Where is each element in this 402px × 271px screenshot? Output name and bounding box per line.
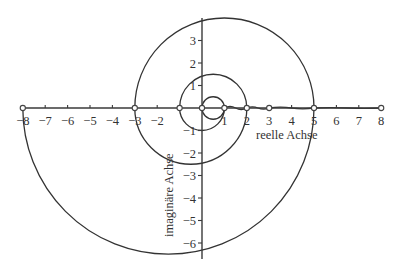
point-marker (311, 105, 316, 110)
tick-labels: −8−7−6−5−4−3−212345678321−1−2−3−4−5−6 (16, 34, 384, 251)
y-tick-label: −1 (183, 124, 196, 138)
y-tick-label: 1 (190, 79, 196, 93)
x-tick-label: 8 (378, 114, 384, 128)
point-marker (379, 105, 384, 110)
spiral-arc-1 (135, 18, 314, 108)
spiral-arc-5 (202, 97, 224, 108)
x-tick-label: −3 (128, 114, 141, 128)
x-tick-label: 6 (333, 114, 339, 128)
x-tick-label: 2 (244, 114, 250, 128)
x-tick-label: 7 (356, 114, 362, 128)
point-marker (199, 105, 204, 110)
point-marker (267, 105, 272, 110)
point-marker (132, 105, 137, 110)
point-marker (177, 105, 182, 110)
point-marker (20, 105, 25, 110)
spiral-diagram: −8−7−6−5−4−3−212345678321−1−2−3−4−5−6 re… (0, 0, 402, 271)
axes (23, 18, 381, 259)
y-tick-label: −5 (183, 214, 196, 228)
complex-plane-plot: −8−7−6−5−4−3−212345678321−1−2−3−4−5−6 re… (0, 0, 402, 271)
point-marker (222, 105, 227, 110)
x-axis-label: reelle Achse (256, 128, 318, 142)
y-tick-label: −3 (183, 169, 196, 183)
y-tick-label: −6 (183, 237, 196, 251)
y-tick-label: 2 (190, 57, 196, 71)
y-tick-label: −2 (183, 147, 196, 161)
y-tick-label: 3 (190, 34, 196, 48)
x-tick-label: −6 (61, 114, 74, 128)
y-axis-label: imaginäre Achse (162, 153, 176, 237)
x-tick-label: 5 (311, 114, 317, 128)
y-tick-label: −4 (183, 192, 197, 206)
x-tick-label: 1 (221, 114, 227, 128)
x-tick-label: −8 (16, 114, 29, 128)
x-tick-label: −7 (39, 114, 52, 128)
point-marker (244, 105, 249, 110)
x-tick-label: −4 (106, 114, 120, 128)
x-tick-label: −5 (83, 114, 96, 128)
x-tick-label: 4 (288, 114, 295, 128)
x-tick-label: −2 (151, 114, 164, 128)
x-tick-label: 3 (266, 114, 272, 128)
